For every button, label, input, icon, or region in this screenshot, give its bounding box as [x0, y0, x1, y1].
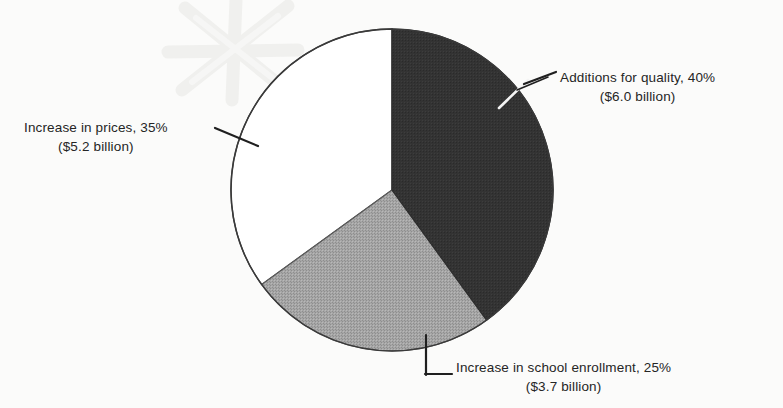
pie-chart-figure: Additions for quality, 40% ($6.0 billion…	[0, 0, 783, 408]
pie-chart-canvas	[0, 0, 783, 408]
slice-label-increase-in-prices: Increase in prices, 35% ($5.2 billion)	[24, 118, 168, 156]
slice-label-additions-for-quality: Additions for quality, 40% ($6.0 billion…	[560, 68, 715, 106]
slice-label-enrollment-title: Increase in school enrollment, 25%	[456, 358, 671, 377]
slice-label-enrollment-amount: ($3.7 billion)	[456, 377, 671, 396]
slice-label-increase-in-school-enrollment: Increase in school enrollment, 25% ($3.7…	[456, 358, 671, 396]
slice-label-prices-amount: ($5.2 billion)	[24, 137, 168, 156]
slice-label-additions-amount: ($6.0 billion)	[560, 87, 715, 106]
slice-label-additions-title: Additions for quality, 40%	[560, 68, 715, 87]
slice-label-prices-title: Increase in prices, 35%	[24, 118, 168, 137]
